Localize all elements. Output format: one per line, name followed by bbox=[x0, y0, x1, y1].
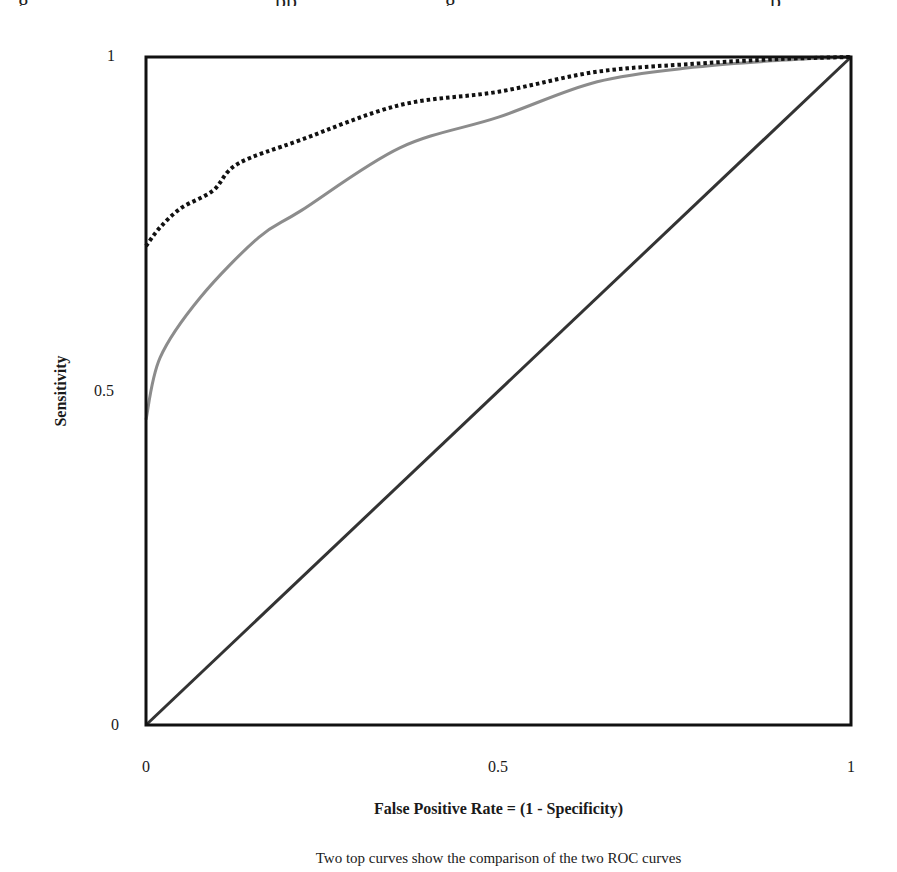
figure-caption: Two top curves show the comparison of th… bbox=[0, 850, 897, 867]
y-tick-0-5: 0.5 bbox=[94, 382, 114, 400]
series-layer bbox=[146, 57, 851, 725]
x-tick-0: 0 bbox=[142, 758, 150, 776]
roc-curve-gray bbox=[146, 57, 851, 420]
x-tick-0-5: 0.5 bbox=[488, 758, 508, 776]
y-tick-1: 1 bbox=[107, 47, 115, 65]
x-tick-1: 1 bbox=[847, 758, 855, 776]
y-axis-label: Sensitivity bbox=[52, 355, 70, 426]
roc-plot bbox=[0, 0, 897, 872]
roc-curve-dotted bbox=[146, 57, 851, 246]
chance-diagonal-line bbox=[146, 57, 851, 725]
y-tick-0: 0 bbox=[111, 716, 119, 734]
x-axis-label: False Positive Rate = (1 - Specificity) bbox=[0, 800, 897, 818]
